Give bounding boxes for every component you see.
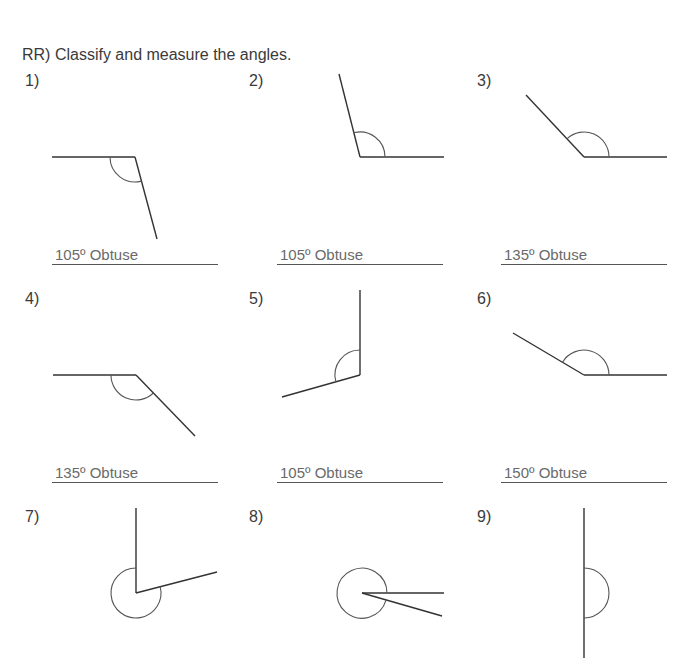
angle-figure-1 <box>52 157 157 239</box>
angle-figure-5 <box>282 290 360 397</box>
angle-figure-8 <box>337 568 444 618</box>
angle-figures <box>0 0 695 658</box>
angle-figure-2 <box>339 74 444 157</box>
angle-figure-3 <box>526 95 667 157</box>
angle-figure-4 <box>53 375 195 436</box>
angle-figure-6 <box>513 333 667 375</box>
angle-figure-9 <box>584 508 609 658</box>
angle-figure-7 <box>111 508 217 618</box>
